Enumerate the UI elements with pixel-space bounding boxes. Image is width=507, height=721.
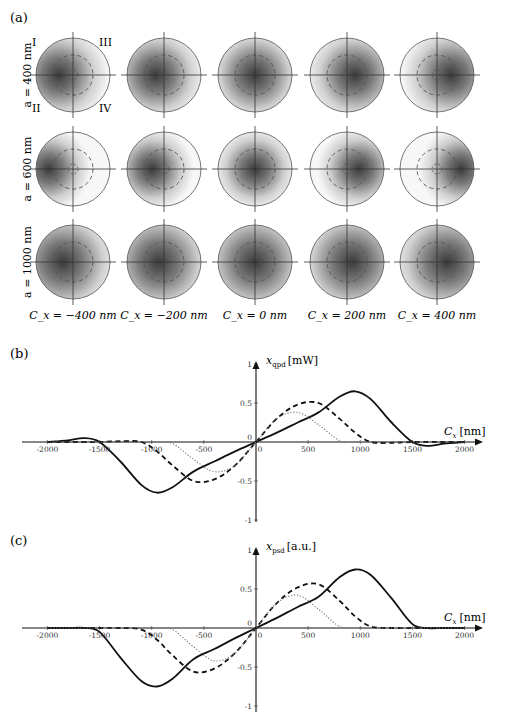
y-axis-arrow-icon <box>253 361 260 369</box>
detector-spot <box>212 219 298 305</box>
y-tick-label: 0.5 <box>240 585 252 594</box>
row-label-a1000: a = 1000 nm <box>21 226 34 298</box>
col-label-cx-neg400: C_x = −400 nm <box>29 309 117 322</box>
detector-spot <box>394 32 480 118</box>
plot-c-xlabel-sub: x <box>452 618 456 626</box>
plot-b-ylabel-unit: [mW] <box>288 354 318 367</box>
detector-spot <box>394 126 480 212</box>
detector-spot <box>121 219 207 305</box>
col-label-cx-neg200: C_x = −200 nm <box>120 309 208 322</box>
x-tick-label: 2000 <box>455 631 474 640</box>
plot-c: -2000-1500-1000-5000500100015002000-1-0.… <box>22 546 483 712</box>
panel-b-label: (b) <box>10 346 28 361</box>
x-tick-label: 0 <box>258 631 263 640</box>
detector-spot <box>212 126 298 212</box>
row-label-a600: a = 600 nm <box>21 136 34 201</box>
row-label-a400: a = 400 nm <box>21 42 34 107</box>
plot-c-xlabel-unit: [nm] <box>459 611 485 624</box>
plot-b-ylabel-sub: qpd <box>272 361 286 369</box>
figure: (a) I III II IV a = 400 nm a = 600 nm a … <box>0 0 507 721</box>
detector-spot <box>121 126 207 212</box>
y-tick-label: 1 <box>247 546 252 555</box>
x-tick-label: 1000 <box>351 631 370 640</box>
plot-b-xlabel: Cx[nm] <box>444 425 485 440</box>
panel-c-label: (c) <box>10 533 27 548</box>
plot-b: -2000-1500-1000-5000500100015002000-1-0.… <box>22 360 483 525</box>
y-tick-label: -0.5 <box>238 663 253 672</box>
y-tick-label: -0.5 <box>238 477 253 486</box>
plot-b-xlabel-unit: [nm] <box>459 425 485 438</box>
x-tick-label: -2000 <box>37 445 59 454</box>
x-tick-label: -500 <box>195 445 212 454</box>
x-tick-label: 0 <box>258 445 263 454</box>
detector-spot <box>30 219 116 305</box>
y-axis-arrow-icon <box>253 547 260 555</box>
panel-b: (b) -2000-1500-1000-5000500100015002000-… <box>10 346 485 525</box>
x-tick-label: -500 <box>195 631 212 640</box>
plot-c-ylabel: xpsd[a.u.] <box>266 540 316 555</box>
y-tick-label: -1 <box>245 516 252 525</box>
panel-a-label: (a) <box>10 10 28 25</box>
detector-spot <box>394 219 480 305</box>
x-tick-label: 1500 <box>403 445 422 454</box>
panel-c: (c) -2000-1500-1000-5000500100015002000-… <box>10 533 485 712</box>
quadrant-label-III: III <box>99 36 112 49</box>
x-tick-label: 2000 <box>455 445 474 454</box>
plot-c-ylabel-unit: [a.u.] <box>287 540 316 553</box>
x-tick-label: 500 <box>301 631 316 640</box>
y-tick-label: 0 <box>247 433 252 442</box>
detector-spot <box>212 32 298 118</box>
detector-spot <box>121 32 207 118</box>
detector-spot <box>30 126 116 212</box>
x-tick-label: 500 <box>301 445 316 454</box>
y-tick-label: 0 <box>247 619 252 628</box>
x-axis-arrow-icon <box>475 625 483 632</box>
x-tick-label: -2000 <box>37 631 59 640</box>
detector-spot <box>304 219 390 305</box>
y-tick-label: 1 <box>247 360 252 369</box>
col-label-cx-0: C_x = 0 nm <box>223 309 287 322</box>
x-axis-arrow-icon <box>475 439 483 446</box>
x-tick-label: 1500 <box>403 631 422 640</box>
spot-grid <box>30 32 480 305</box>
detector-spot <box>304 126 390 212</box>
plot-c-ylabel-sub: psd <box>272 547 285 555</box>
y-tick-label: 0.5 <box>240 399 252 408</box>
y-tick-label: -1 <box>245 702 252 711</box>
plot-c-xlabel: Cx[nm] <box>444 611 485 626</box>
plot-b-xlabel-sub: x <box>452 432 456 440</box>
x-tick-label: 1000 <box>351 445 370 454</box>
detector-spot <box>304 32 390 118</box>
col-label-cx-400: C_x = 400 nm <box>398 309 476 322</box>
plot-b-ylabel: xqpd[mW] <box>266 354 318 369</box>
col-label-cx-200: C_x = 200 nm <box>308 309 386 322</box>
quadrant-label-IV: IV <box>99 102 112 115</box>
panel-a: (a) I III II IV a = 400 nm a = 600 nm a … <box>10 10 480 322</box>
